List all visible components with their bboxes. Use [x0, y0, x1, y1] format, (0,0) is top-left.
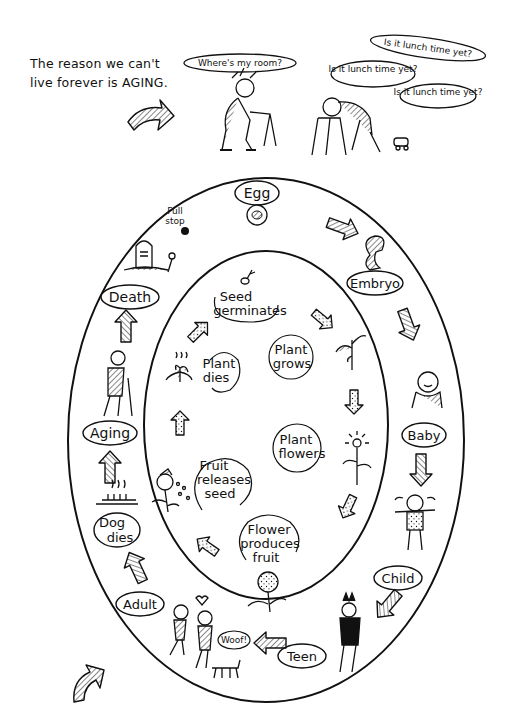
- old-man-cane-icon: [104, 351, 132, 416]
- wilted-plant-icon: [166, 352, 192, 382]
- curved-arrow-icon: [128, 100, 174, 130]
- bottom-curved-arrow-icon: [74, 665, 104, 702]
- stage-teen: Teen: [278, 593, 360, 672]
- svg-text:Death: Death: [109, 289, 151, 305]
- full-stop-note: Fullstop: [165, 206, 189, 235]
- sprouting-seed-icon: [241, 270, 255, 284]
- svg-text:Child: Child: [382, 571, 415, 586]
- stage-fruit-releases-seed: Fruitreleasesseed: [152, 458, 252, 512]
- baby-icon: [412, 372, 442, 408]
- arrow-releases-to-dies-icon: [171, 411, 189, 435]
- egg-icon: [247, 205, 267, 225]
- flower-icon: [343, 431, 371, 485]
- stage-child: Child: [374, 495, 435, 590]
- plant-dies-label: Plantdies: [203, 356, 236, 385]
- arrow-dies-to-seed-icon: [184, 316, 214, 346]
- arrow-egg-to-embryo-icon: [324, 212, 362, 244]
- svg-text:Egg: Egg: [244, 185, 271, 201]
- stage-dog-dies: Dogdies: [94, 480, 140, 547]
- flower-produces-fruit-label: Flowerproducesfruit: [240, 522, 300, 565]
- stage-plant-flowers: Plantflowers: [273, 424, 371, 485]
- fruiting-flower-icon: [248, 572, 286, 612]
- stage-plant-dies: Plantdies: [166, 352, 240, 392]
- arrow-baby-to-child-icon: [410, 454, 432, 486]
- child-icon: [395, 495, 435, 550]
- speech-bubble-where-room: Where's my room?: [198, 58, 282, 68]
- life-cycle-diagram: Where's my room? Is it lunch time yet? I…: [0, 0, 514, 717]
- arrow-aging-to-death-icon: [115, 310, 137, 342]
- seed-germinates-label: Seedgerminates: [213, 289, 287, 318]
- stage-plant-grows: Plantgrows: [269, 335, 366, 379]
- stage-embryo: Embryo: [347, 236, 403, 295]
- full-stop-label: Fullstop: [165, 206, 185, 226]
- svg-text:Embryo: Embryo: [350, 276, 400, 291]
- svg-text:Teen: Teen: [286, 649, 317, 664]
- arrow-seed-to-grows-icon: [308, 305, 338, 334]
- speech-bubble-lunch-2: Is it lunch time yet?: [329, 64, 418, 74]
- stage-aging: Aging: [83, 351, 137, 445]
- woof-bubble: Woof!: [221, 635, 247, 645]
- svg-text:Baby: Baby: [408, 428, 441, 443]
- dog-icon: [212, 660, 240, 678]
- speech-bubble-lunch-3: Is it lunch time yet?: [394, 87, 483, 97]
- fruit-releases-seed-label: Fruitreleasesseed: [197, 458, 251, 501]
- arrow-flowers-to-fruit-icon: [335, 492, 361, 521]
- couple-icon: [170, 596, 212, 668]
- teen-icon: [340, 593, 360, 672]
- svg-text:Aging: Aging: [90, 425, 130, 441]
- stage-seed-germinates: Seedgerminates: [213, 270, 287, 322]
- embryo-icon: [366, 236, 384, 270]
- young-plant-icon: [336, 336, 366, 370]
- plant-grows-label: Plantgrows: [273, 342, 312, 371]
- arrow-grows-to-flowers-icon: [345, 390, 363, 414]
- arrow-fruit-to-releases-icon: [192, 532, 222, 561]
- stage-egg: Egg: [235, 181, 279, 225]
- svg-text:Adult: Adult: [123, 597, 157, 612]
- arrow-adult-to-dog-dies-icon: [119, 548, 152, 586]
- old-man-lunch-illustration: Is it lunch time yet? Is it lunch time y…: [312, 30, 487, 155]
- arrow-child-to-teen-icon: [369, 586, 406, 625]
- gravestone-icon: [124, 241, 175, 272]
- full-stop-dot-icon: [181, 227, 189, 235]
- stage-baby: Baby: [402, 372, 446, 447]
- arrow-dog-dies-to-aging-icon: [99, 451, 121, 483]
- old-man-walker-illustration: Where's my room?: [184, 54, 296, 150]
- stage-adult: Adult Woof!: [116, 592, 250, 678]
- dead-dog-icon: [96, 480, 138, 504]
- arrow-embryo-to-baby-icon: [392, 306, 424, 344]
